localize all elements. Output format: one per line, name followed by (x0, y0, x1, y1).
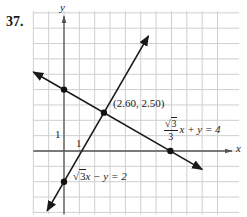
data-point (167, 148, 173, 154)
x-unit-label: 1 (76, 137, 82, 149)
data-point (61, 179, 67, 185)
x-axis-label: x (236, 142, 241, 154)
equation-1-label: √3 3 x + y = 4 (164, 119, 221, 142)
equation-2-rest: x − y = 2 (86, 170, 127, 182)
data-point (101, 109, 107, 115)
equation-1-fraction: √3 3 (164, 119, 178, 142)
equation-1-rest: x + y = 4 (180, 123, 221, 135)
intersection-label: (2.60, 2.50) (113, 97, 164, 109)
line-series-2 (47, 36, 148, 211)
data-point (61, 86, 67, 92)
y-unit-label: 1 (55, 128, 61, 140)
equation-2-label: √3x − y = 2 (73, 170, 127, 182)
y-axis-label: y (60, 1, 65, 13)
